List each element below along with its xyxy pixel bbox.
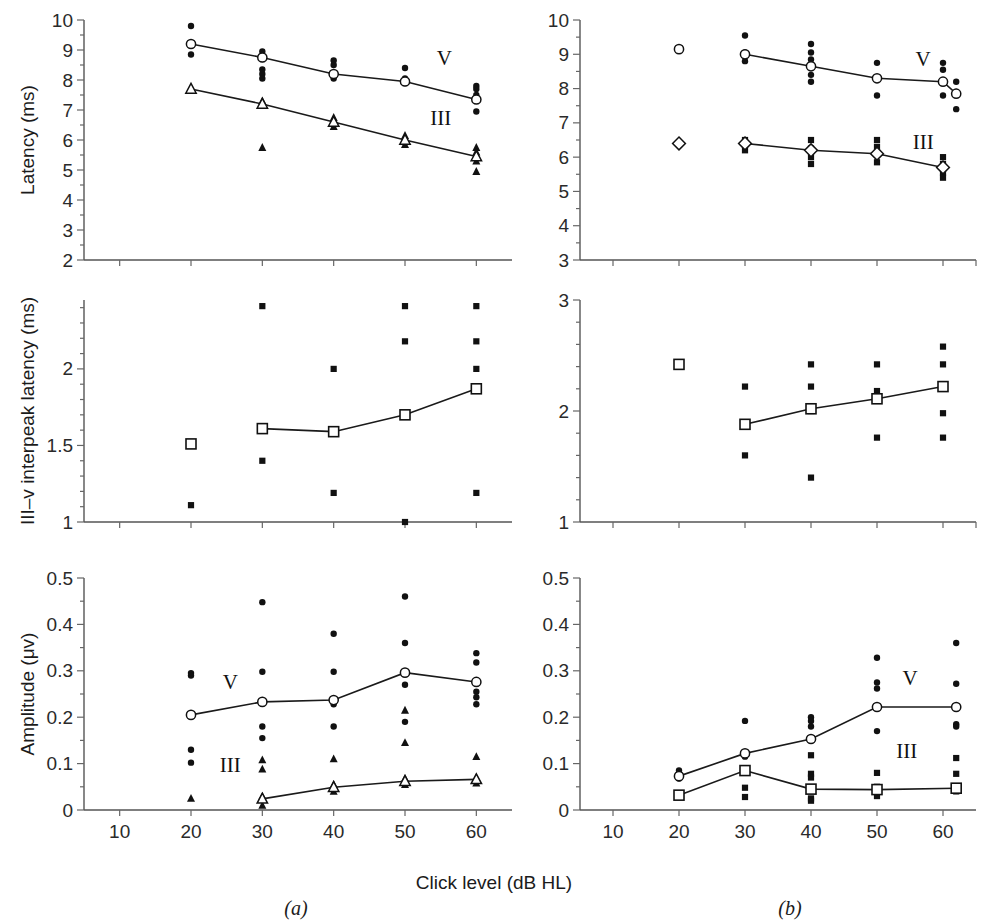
y-tick-label: 0.2 — [543, 707, 569, 728]
data-point — [188, 51, 194, 57]
data-point — [940, 154, 946, 160]
data-point — [188, 759, 194, 765]
y-tick-label: 2 — [62, 250, 73, 271]
data-point — [742, 383, 748, 389]
data-point — [874, 92, 880, 98]
abr-figure: 2345678910VIII345678910VIII11.5212300.10… — [0, 0, 988, 922]
data-point — [874, 770, 880, 776]
mean-marker — [329, 695, 338, 704]
data-point — [330, 755, 338, 763]
mean-marker — [740, 50, 749, 59]
data-point — [808, 41, 814, 47]
mean-marker — [938, 382, 948, 392]
mean-marker — [805, 144, 818, 157]
data-point — [402, 682, 408, 688]
x-axis-title: Click level (dB HL) — [416, 872, 572, 893]
data-point — [874, 137, 880, 143]
mean-marker — [329, 427, 339, 437]
y-tick-label: 3 — [558, 250, 569, 271]
data-point — [473, 303, 479, 309]
mean-marker — [951, 783, 961, 793]
panel-caption-a: (a) — [284, 897, 308, 920]
data-point — [808, 752, 814, 758]
data-point — [808, 137, 814, 143]
data-point — [742, 794, 748, 800]
data-point — [259, 723, 265, 729]
panel-caption-b: (b) — [778, 897, 802, 920]
data-point — [874, 60, 880, 66]
mean-marker-isolated — [674, 359, 684, 369]
panel-panel-b-amplitude: 00.10.20.30.40.5102030405060VIII — [543, 568, 976, 843]
mean-marker — [739, 137, 752, 150]
y-tick-label: 0.5 — [47, 568, 73, 589]
data-point — [874, 435, 880, 441]
data-point — [258, 755, 266, 763]
data-point — [808, 49, 814, 55]
mean-marker-isolated — [673, 137, 686, 150]
data-point — [874, 361, 880, 367]
y-tick-label: 0.4 — [47, 614, 74, 635]
data-point — [401, 738, 409, 746]
data-point — [874, 728, 880, 734]
mean-marker-isolated — [674, 45, 683, 54]
data-point — [953, 771, 959, 777]
mean-marker — [472, 677, 481, 686]
y-tick-label: 1.5 — [47, 435, 73, 456]
data-point — [330, 669, 336, 675]
data-point — [940, 410, 946, 416]
y-tick-label: 7 — [558, 112, 569, 133]
x-tick-label: 20 — [180, 821, 201, 842]
y-tick-label: 0.4 — [543, 614, 570, 635]
data-point — [742, 785, 748, 791]
y-tick-label: 0.1 — [47, 753, 73, 774]
mean-marker — [740, 419, 750, 429]
wave-label-iii: III — [913, 130, 934, 154]
panel-panel-b-latency: 345678910VIII — [548, 10, 976, 271]
x-tick-label: 10 — [602, 821, 623, 842]
data-point — [953, 640, 959, 646]
y-tick-label: 2 — [558, 401, 569, 422]
mean-marker — [471, 384, 481, 394]
y-tick-label: 0 — [558, 800, 569, 821]
wave-label-v: V — [223, 670, 238, 694]
y-tick-label: 4 — [62, 190, 73, 211]
wave-label-v: V — [902, 666, 917, 690]
data-point — [473, 688, 479, 694]
data-point — [259, 669, 265, 675]
data-point — [808, 723, 814, 729]
y-tick-label: 10 — [548, 10, 569, 31]
y-tick-label: 6 — [558, 147, 569, 168]
data-point — [330, 723, 336, 729]
x-tick-label: 30 — [734, 821, 755, 842]
data-point — [187, 794, 195, 802]
data-point — [808, 361, 814, 367]
y-tick-label: 0.2 — [47, 707, 73, 728]
data-point — [259, 599, 265, 605]
x-tick-label: 60 — [466, 821, 487, 842]
mean-marker — [674, 772, 683, 781]
figure-canvas: 2345678910VIII345678910VIII11.5212300.10… — [0, 0, 988, 922]
y-axis-title: Latency (ms) — [17, 85, 38, 195]
data-point — [402, 640, 408, 646]
data-point — [953, 106, 959, 112]
wave-label-v: V — [437, 46, 452, 70]
data-point — [331, 366, 337, 372]
data-point — [472, 752, 480, 760]
mean-marker — [674, 790, 684, 800]
data-point — [940, 60, 946, 66]
data-point — [402, 65, 408, 71]
panel-panel-a-latency: 2345678910VIII — [52, 10, 512, 271]
data-point — [808, 718, 814, 724]
x-tick-label: 60 — [932, 821, 953, 842]
mean-marker — [472, 95, 481, 104]
x-tick-label: 30 — [252, 821, 273, 842]
data-point — [953, 723, 959, 729]
mean-marker — [740, 766, 750, 776]
data-point — [473, 701, 479, 707]
data-point — [402, 338, 408, 344]
data-point — [258, 765, 266, 773]
wave-label-iii: III — [220, 753, 241, 777]
data-point — [473, 490, 479, 496]
data-point — [874, 685, 880, 691]
y-tick-label: 3 — [62, 220, 73, 241]
